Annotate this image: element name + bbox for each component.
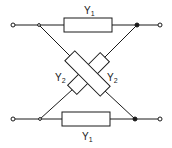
lattice-network-diagram: Y1 Y2 Y2 Y1 [0,0,172,148]
terminal-bottom-left [11,117,15,121]
y1-admittance-top [64,18,112,32]
y1-admittance-bottom [62,112,110,126]
label-y2-right: Y2 [107,72,118,84]
junction-top-left [38,24,41,27]
junction-bottom-left [39,118,42,121]
label-y1-top: Y1 [84,5,95,17]
junction-top-right [135,23,139,27]
terminal-top-right [158,23,162,27]
label-y1-bottom: Y1 [82,131,93,143]
terminal-bottom-right [158,117,162,121]
label-y2-left: Y2 [55,72,66,84]
terminal-top-left [11,23,15,27]
junction-bottom-right [133,117,137,121]
